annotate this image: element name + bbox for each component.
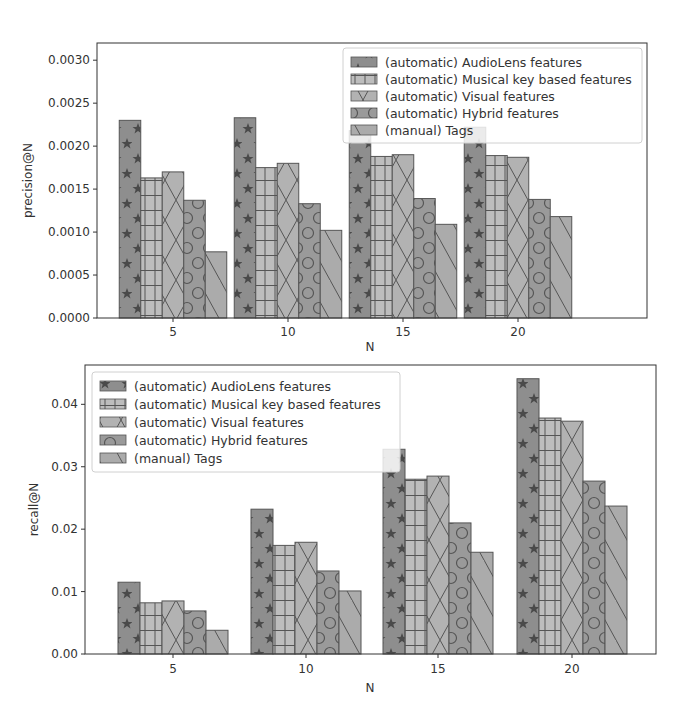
legend-swatch-backslash [351,125,377,135]
bar-grid-n15 [371,156,393,318]
bar-stars-n5 [119,120,141,318]
bar-stars-n5 [118,582,140,654]
x-tick-label: 5 [169,325,177,339]
bar-grid-n5 [141,178,163,318]
y-tick-label: 0.0030 [48,53,90,67]
legend-label: (automatic) AudioLens features [385,55,582,70]
y-tick-label: 0.01 [51,585,78,599]
x-tick-label: 15 [430,662,445,676]
bar-cross-n10 [277,163,299,318]
bar-cross-n20 [507,157,529,318]
y-axis-label: recall@N [27,483,41,537]
y-tick-label: 0.0015 [48,182,90,196]
legend-swatch-stars [351,57,377,67]
y-tick-label: 0.0000 [48,311,90,325]
bar-grid-n10 [256,168,278,318]
y-tick-label: 0.04 [51,397,78,411]
bar-cross-n5 [162,601,184,654]
bar-circles-n20 [529,199,551,318]
legend-label: (automatic) Hybrid features [134,433,308,448]
legend-swatch-circles [100,435,126,445]
legend-swatch-circles [351,108,377,118]
bar-backslash-n10 [320,230,342,318]
y-tick-label: 0.0010 [48,225,90,239]
bar-grid-n10 [273,545,295,654]
bar-circles-n20 [583,481,605,654]
bar-circles-n5 [184,200,206,318]
bar-cross-n15 [392,155,414,318]
bar-grid-n20 [539,418,561,654]
bar-circles-n5 [184,611,206,654]
figure: 0.00000.00050.00100.00150.00200.00250.00… [0,0,686,727]
legend: (automatic) AudioLens features(automatic… [92,372,400,472]
bar-grid-n20 [486,156,508,318]
y-tick-label: 0.0005 [48,268,90,282]
bar-backslash-n15 [435,224,457,318]
x-tick-label: 5 [169,662,177,676]
precision-chart: 0.00000.00050.00100.00150.00200.00250.00… [21,43,647,354]
x-axis-label: N [366,681,375,695]
bar-backslash-n20 [550,217,572,318]
x-axis-label: N [366,340,375,354]
x-tick-label: 20 [564,662,579,676]
y-tick-label: 0.0020 [48,139,90,153]
legend-label: (automatic) Visual features [385,89,555,104]
bar-cross-n15 [427,476,449,654]
legend-swatch-cross [100,417,126,427]
bar-circles-n10 [299,204,321,318]
bar-grid-n5 [140,603,162,654]
legend-swatch-cross [351,91,377,101]
bar-circles-n15 [449,523,471,654]
x-tick-label: 15 [395,325,410,339]
legend-label: (automatic) Hybrid features [385,106,559,121]
legend-swatch-stars [100,381,126,391]
bar-backslash-n5 [206,630,228,654]
legend-label: (automatic) AudioLens features [134,379,331,394]
x-tick-label: 20 [510,325,525,339]
bar-backslash-n15 [471,552,493,654]
bar-backslash-n5 [205,252,227,318]
legend-label: (automatic) Musical key based features [134,397,381,412]
bar-stars-n10 [234,118,256,318]
bar-stars-n10 [251,509,273,654]
legend-label: (automatic) Visual features [134,415,304,430]
legend-swatch-backslash [100,453,126,463]
bar-circles-n15 [414,199,436,318]
bar-cross-n20 [561,421,583,654]
bar-cross-n5 [162,172,184,318]
legend: (automatic) AudioLens features(automatic… [343,48,642,143]
y-tick-label: 0.00 [51,647,78,661]
bar-stars-n15 [383,449,405,654]
bar-backslash-n10 [339,591,361,654]
bar-grid-n15 [405,479,427,654]
y-axis-label: precision@N [21,143,35,218]
bar-stars-n20 [517,379,539,654]
legend-label: (automatic) Musical key based features [385,72,632,87]
y-tick-label: 0.0025 [48,96,90,110]
x-tick-label: 10 [280,325,295,339]
y-tick-label: 0.02 [51,522,78,536]
bar-circles-n10 [317,571,339,654]
legend-swatch-grid [351,74,377,84]
y-tick-label: 0.03 [51,460,78,474]
legend-label: (manual) Tags [134,451,222,466]
bar-cross-n10 [295,542,317,654]
legend-label: (manual) Tags [385,123,473,138]
bar-stars-n20 [464,127,486,318]
bar-backslash-n20 [605,506,627,654]
recall-chart: 0.000.010.020.030.045101520Nrecall@N(aut… [27,365,656,695]
bar-stars-n15 [349,131,371,318]
legend-swatch-grid [100,399,126,409]
x-tick-label: 10 [298,662,313,676]
